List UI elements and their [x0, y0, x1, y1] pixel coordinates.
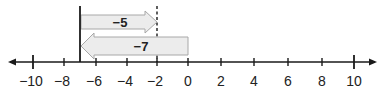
right-arrowhead-icon [369, 59, 377, 66]
number-line-diagram: −10 −8 −6 −4 −2 0 2 4 6 8 10 −5 −7 [0, 0, 385, 92]
tick-label: 4 [250, 73, 258, 89]
tick-label: −8 [54, 73, 70, 89]
tick-label: 10 [346, 73, 362, 89]
arrow-minus-7: −7 [81, 33, 188, 59]
tick-label: 8 [318, 73, 326, 89]
tick-label: −6 [86, 73, 102, 89]
arrow-minus-5: −5 [81, 11, 157, 33]
tick-label: −2 [147, 73, 163, 89]
arrow-label: −7 [134, 39, 149, 54]
tick-labels: −10 −8 −6 −4 −2 0 2 4 6 8 10 [19, 73, 362, 89]
tick-label: 6 [284, 73, 292, 89]
tick-label: 2 [217, 73, 225, 89]
left-arrowhead-icon [8, 59, 16, 66]
tick-label: −10 [19, 73, 43, 89]
arrow-label: −5 [113, 15, 128, 30]
tick-label: 0 [184, 73, 192, 89]
tick-label: −4 [117, 73, 133, 89]
